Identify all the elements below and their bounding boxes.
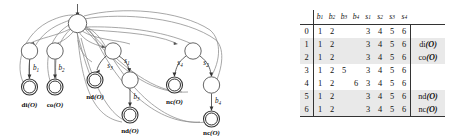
- cell-5-s2: 4: [374, 90, 386, 103]
- cell-4-s3: 5: [386, 77, 398, 90]
- row-header-3: 3: [300, 64, 314, 77]
- cell-1-b4: [350, 38, 362, 51]
- accept-state-nd-b3-inner: [124, 109, 136, 121]
- cell-5-b1: 1: [314, 90, 327, 103]
- accept-state-nd-inner: [89, 74, 101, 86]
- cell-1-s4: 6: [398, 38, 411, 51]
- edge-s3: [97, 56, 106, 70]
- cell-5-s1: 3: [362, 90, 374, 103]
- cell-5-b3: [338, 90, 350, 103]
- cell-1-s3: 5: [386, 38, 398, 51]
- transition-table-wrap: b1 b2 b3 b4 s1 s2 s3 s4 0 1 2: [300, 10, 445, 117]
- cell-6-b3: [338, 103, 350, 117]
- edge-label-b2: b2: [58, 64, 65, 73]
- edge-label-b1: b1: [33, 64, 39, 73]
- col-header-b2: b2: [326, 10, 338, 25]
- mid-state-co: [47, 43, 63, 59]
- cell-0-b3: [338, 25, 350, 39]
- automaton-diagram: b1 di(O) b2 co(O) s: [0, 0, 234, 136]
- cell-0-b4: [350, 25, 362, 39]
- row-annotation-6: nc(O): [411, 103, 446, 117]
- cell-3-s3: 5: [386, 64, 398, 77]
- accept-label-nd: nd(O): [86, 93, 104, 101]
- cell-6-b2: 2: [326, 103, 338, 117]
- row-annotation-5: nd(O): [411, 90, 446, 103]
- table-corner-cell: [300, 10, 314, 25]
- cell-4-b3: [338, 77, 350, 90]
- table-row: 4 1 2 6 3 4 5 6: [300, 77, 445, 90]
- accept-state-nc-inner: [169, 79, 181, 91]
- cell-4-b1: 1: [314, 77, 327, 90]
- table-row: 6 1 2 3 4 5 6 nc(O): [300, 103, 445, 117]
- accept-label-nc: nc(O): [166, 98, 183, 106]
- cell-0-s1: 3: [362, 25, 374, 39]
- cell-4-b4: 6: [350, 77, 362, 90]
- mid-state-nc-b4: [203, 77, 219, 93]
- col-header-b4: b4: [350, 10, 362, 25]
- cell-3-s2: 4: [374, 64, 386, 77]
- row-header-6: 6: [300, 103, 314, 117]
- edge-label-s4: s4: [177, 59, 183, 68]
- mid-state-nd: [105, 43, 121, 59]
- cell-3-s4: 6: [398, 64, 411, 77]
- row-annotation-3: [411, 64, 446, 77]
- table-body: 0 1 2 3 4 5 6 1 1 2 3: [300, 25, 445, 117]
- mid-state-nc: [185, 43, 201, 59]
- table-row: 3 1 2 5 3 4 5 6: [300, 64, 445, 77]
- cell-6-s1: 3: [362, 103, 374, 117]
- row-header-5: 5: [300, 90, 314, 103]
- cell-3-s1: 3: [362, 64, 374, 77]
- cell-1-s1: 3: [362, 38, 374, 51]
- col-header-s2: s2: [374, 10, 386, 25]
- table-row: 1 1 2 3 4 5 6 di(O): [300, 38, 445, 51]
- cell-4-s1: 3: [362, 77, 374, 90]
- cell-5-b2: 2: [326, 90, 338, 103]
- root-state: [68, 14, 86, 32]
- cell-0-b1: 1: [314, 25, 327, 39]
- col-header-annotation: [411, 10, 446, 25]
- cell-5-s4: 6: [398, 90, 411, 103]
- accept-label-di: di(O): [22, 101, 38, 109]
- row-header-0: 0: [300, 25, 314, 39]
- cell-4-s2: 4: [374, 77, 386, 90]
- cell-6-s3: 5: [386, 103, 398, 117]
- cell-3-b2: 2: [326, 64, 338, 77]
- cell-2-s1: 3: [362, 51, 374, 64]
- cell-3-b1: 1: [314, 64, 327, 77]
- mid-state-nd-b3: [122, 72, 138, 88]
- cell-1-b3: [338, 38, 350, 51]
- edge-label-b4: b4: [215, 97, 222, 106]
- accept-state-di-inner: [24, 81, 36, 93]
- cell-2-b1: 1: [314, 51, 327, 64]
- cell-5-b4: [350, 90, 362, 103]
- table-row: 5 1 2 3 4 5 6 nd(O): [300, 90, 445, 103]
- row-annotation-0: [411, 25, 446, 39]
- cell-2-s4: 6: [398, 51, 411, 64]
- table-row: 0 1 2 3 4 5 6: [300, 25, 445, 39]
- row-header-2: 2: [300, 51, 314, 64]
- cell-2-b4: [350, 51, 362, 64]
- cell-6-s4: 6: [398, 103, 411, 117]
- edge-label-s3: s3: [107, 62, 113, 71]
- cell-3-b3: 5: [338, 64, 350, 77]
- figure-root: b1 di(O) b2 co(O) s: [0, 0, 467, 136]
- cell-3-b4: [350, 64, 362, 77]
- cell-1-b2: 2: [326, 38, 338, 51]
- cell-6-b4: [350, 103, 362, 117]
- cell-6-b1: 1: [314, 103, 327, 117]
- table-row: 2 1 2 3 4 5 6 co(O): [300, 51, 445, 64]
- col-header-b1: b1: [314, 10, 327, 25]
- edge-label-s1: s1: [124, 57, 129, 66]
- col-header-b3: b3: [338, 10, 350, 25]
- cell-2-b3: [338, 51, 350, 64]
- transition-table: b1 b2 b3 b4 s1 s2 s3 s4 0 1 2: [300, 10, 445, 117]
- accept-label-nc-b4: nc(O): [203, 129, 220, 136]
- cell-2-s3: 5: [386, 51, 398, 64]
- accept-state-co-inner: [49, 81, 61, 93]
- cell-1-b1: 1: [314, 38, 327, 51]
- row-annotation-2: co(O): [411, 51, 446, 64]
- col-header-s4: s4: [398, 10, 411, 25]
- cell-6-s2: 4: [374, 103, 386, 117]
- table-header-row: b1 b2 b3 b4 s1 s2 s3 s4: [300, 10, 445, 25]
- cell-0-s3: 5: [386, 25, 398, 39]
